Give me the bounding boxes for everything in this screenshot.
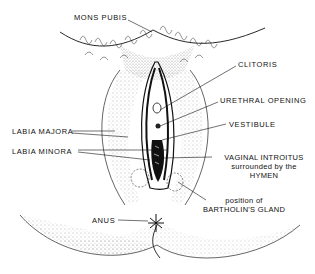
anatomy-diagram: MONS PUBIS CLITORIS URETHRAL OPENING VES… [0,0,315,274]
illustration [0,0,315,274]
leader-lines [72,20,236,221]
pubic-hair [80,26,217,62]
label-vestibule: VESTIBULE [229,120,276,129]
bartholin-line1: position of [194,196,294,205]
bartholin-line2: BARTHOLIN'S GLAND [194,205,294,214]
vaginal-introitus-line3: HYMEN [214,171,314,180]
label-labia-minora: LABIA MINORA [12,147,72,156]
label-mons-pubis: MONS PUBIS [74,13,127,22]
label-urethral-opening: URETHRAL OPENING [220,96,306,105]
vaginal-introitus-line1: VAGINAL INTROITUS [214,153,314,162]
label-vaginal-introitus: VAGINAL INTROITUS surrounded by the HYME… [214,153,314,180]
label-bartholins-gland: position of BARTHOLIN'S GLAND [194,196,294,214]
label-clitoris: CLITORIS [238,60,277,69]
label-anus: ANUS [92,216,115,225]
vaginal-introitus-line2: surrounded by the [214,162,314,171]
mons-outline [60,28,265,46]
label-labia-majora: LABIA MAJORA [12,127,73,136]
